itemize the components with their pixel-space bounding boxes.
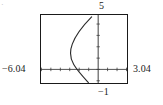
window-ymax-label: 5 xyxy=(99,0,104,11)
parabola-curve xyxy=(70,17,91,83)
calculator-screen-frame xyxy=(40,14,128,84)
graph-plot xyxy=(41,15,127,83)
y-axis-group xyxy=(97,15,100,83)
window-xmin-label: −6.04 xyxy=(2,63,26,74)
scan-artifact-mark: · xyxy=(1,1,8,9)
screenshot-root: · xyxy=(0,0,163,105)
window-ymin-label: −1 xyxy=(98,86,109,97)
x-axis-group xyxy=(41,68,127,71)
window-xmax-label: 3.04 xyxy=(133,63,151,74)
